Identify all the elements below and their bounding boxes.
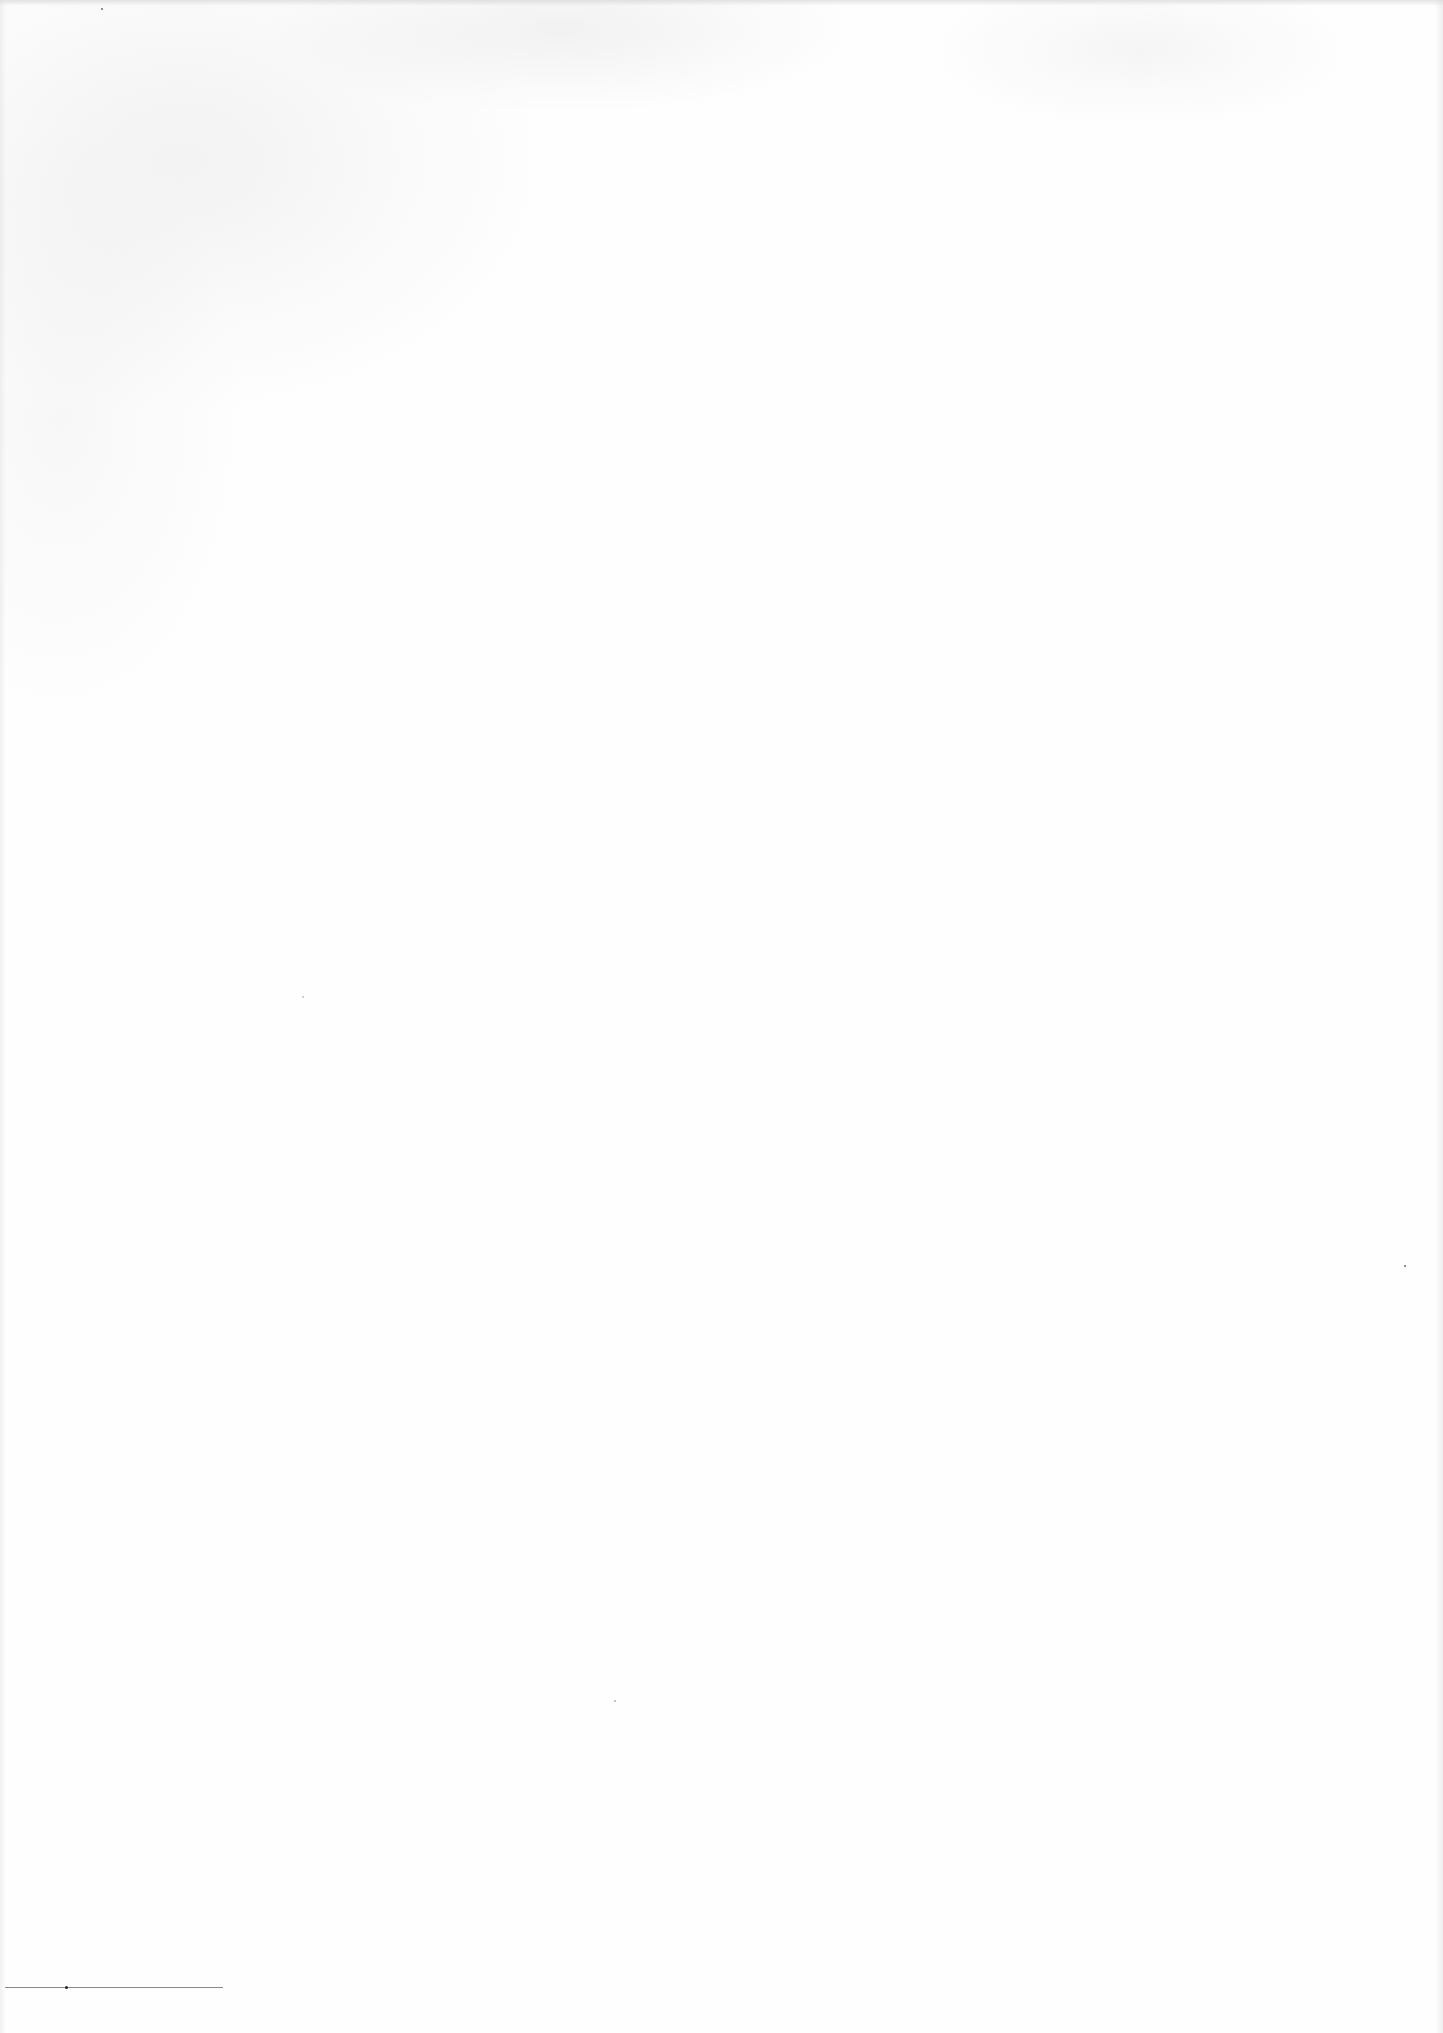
footnote-separator-rule [5,1987,223,1988]
footnote-rule-mark [65,1986,68,1989]
blank-document-page [0,0,1443,2033]
scan-speck [614,1700,616,1702]
scan-noise-texture [0,0,1443,2033]
scan-speck [101,8,103,10]
page-right-edge-shadow [1435,0,1443,2033]
scan-speck [1404,1265,1406,1267]
page-left-edge-shadow [0,0,6,2033]
page-top-edge-shadow [0,0,1443,6]
scan-speck [302,996,304,998]
